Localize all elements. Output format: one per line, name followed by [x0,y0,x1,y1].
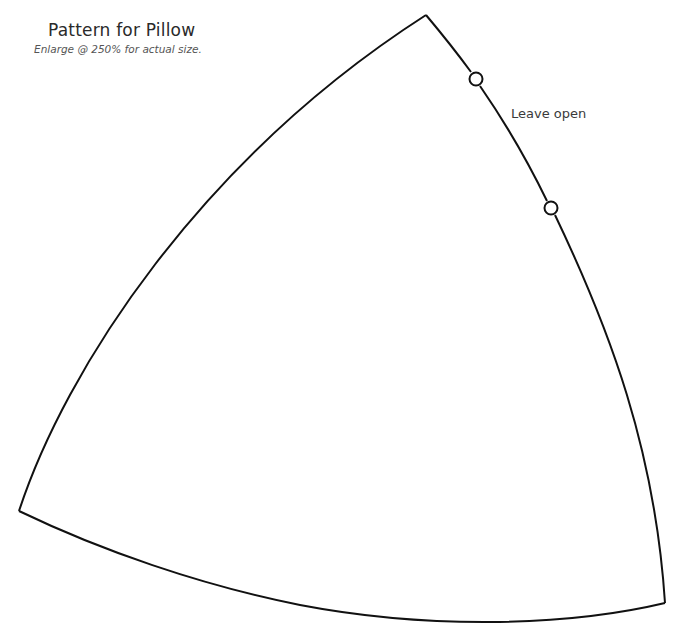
leave-open-label: Leave open [511,106,586,121]
pillow-pattern-diagram [0,0,684,639]
opening-start-marker-icon [470,73,483,86]
pattern-edge-bottom [19,511,665,622]
pattern-edge-right-lower [555,215,665,603]
opening-end-marker-icon [545,202,558,215]
pattern-edge-left [19,15,426,511]
pattern-edge-right-upper [426,15,471,72]
pattern-edge-opening [480,86,547,201]
